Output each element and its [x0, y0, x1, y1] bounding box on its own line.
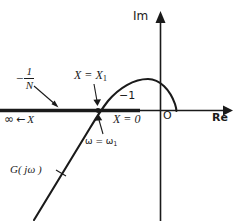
- zero-amplitude-label: X = 0: [113, 113, 140, 125]
- intersection-amplitude-subscript: 1: [103, 73, 107, 83]
- intersection-amplitude-label: X = X1: [74, 69, 107, 81]
- intersection-frequency-subscript: 1: [113, 140, 117, 148]
- nyquist-locus-label: G( jω ): [10, 164, 42, 175]
- leader-line: [94, 84, 97, 101]
- origin-label: O: [163, 110, 172, 121]
- infinity-icon: ∞: [4, 112, 14, 126]
- left-arrow-icon: ←: [16, 113, 25, 126]
- intersection-frequency-text: ω = ω: [85, 136, 113, 146]
- fraction-numerator: 1: [26, 66, 34, 77]
- leader-line: [99, 120, 103, 134]
- intersection-frequency-label: ω = ω1: [85, 137, 117, 146]
- nyquist-figure: − 1 N ∞←X X = X1 X = 0 −1 ω = ω1 G( jω )…: [0, 0, 236, 223]
- intersection-marker: [96, 108, 101, 113]
- leader-minus-one-over-n: [34, 86, 59, 108]
- imaginary-axis-arrowhead: [156, 11, 166, 23]
- real-axis-label: Re: [212, 112, 228, 123]
- leader-x-equals-x1: [93, 84, 101, 106]
- critical-point-label: −1: [119, 90, 135, 101]
- describing-function-label: − 1 N: [16, 66, 34, 91]
- nyquist-curve: [34, 79, 176, 220]
- amplitude-variable: X: [27, 113, 34, 125]
- fraction-denominator: N: [25, 80, 34, 91]
- leader-line: [34, 86, 56, 105]
- amplitude-direction-label: ∞←X: [4, 113, 34, 125]
- fraction: 1 N: [24, 66, 34, 91]
- leader-arrowhead: [93, 99, 101, 106]
- imaginary-axis-label: Im: [133, 10, 148, 22]
- minus-sign: −: [16, 72, 23, 85]
- intersection-amplitude-text: X = X: [74, 68, 103, 82]
